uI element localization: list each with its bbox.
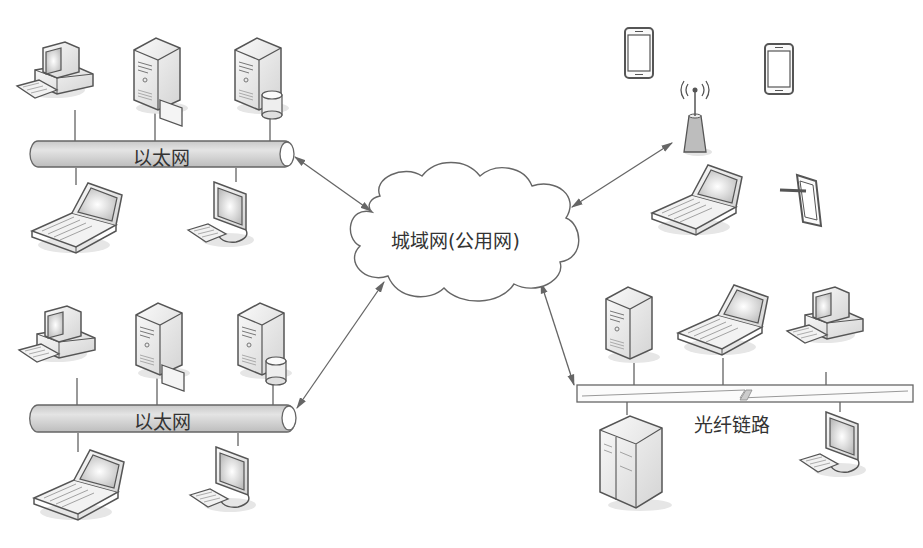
lcd-workstation-icon — [190, 447, 256, 512]
desktop-pc-icon — [17, 42, 93, 98]
laptop-icon — [34, 450, 124, 520]
rack-server-icon — [600, 416, 672, 511]
fiber-link-label: 光纤链路 — [694, 410, 770, 437]
smartphone-icon — [625, 28, 653, 78]
arrow-fiber-to-cloud — [541, 283, 574, 385]
database-cylinder-icon — [262, 91, 282, 119]
fiber-network — [577, 285, 913, 511]
desktop-pc-icon — [787, 287, 863, 343]
ethernet-top-label: 以太网 — [133, 143, 190, 170]
tablet-icon — [780, 175, 821, 226]
desktop-pc-icon — [19, 306, 95, 362]
arrow-lan-bottom-to-cloud — [297, 282, 384, 408]
laptop-icon — [32, 183, 122, 253]
metro-network-label: 城域网(公用网) — [391, 226, 520, 253]
tower-server-icon — [606, 287, 660, 363]
arrow-lan-top-to-cloud — [295, 157, 371, 211]
wireless-network — [625, 28, 821, 235]
laptop-icon — [678, 285, 768, 355]
network-diagram — [0, 0, 923, 548]
wireless-antenna-icon — [681, 81, 712, 156]
laptop-icon — [652, 165, 742, 235]
arrow-wireless-to-cloud — [572, 143, 672, 207]
lcd-workstation-icon — [188, 182, 254, 247]
lcd-workstation-icon — [800, 412, 866, 477]
ethernet-bottom-label: 以太网 — [134, 407, 191, 434]
smartphone-icon — [765, 44, 793, 94]
database-cylinder-icon — [266, 357, 286, 385]
